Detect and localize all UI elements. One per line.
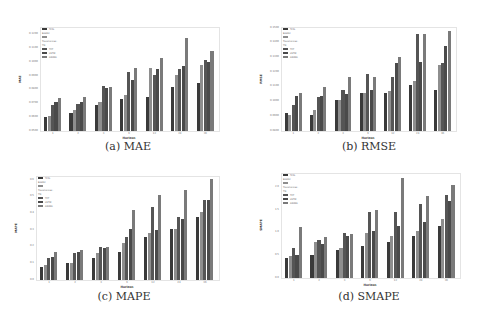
y-tick-label: 0.0900: [24, 74, 38, 77]
legend-swatch: [283, 198, 288, 200]
legend-swatch: [42, 36, 47, 38]
legend-item: TCN-BiGRU: [283, 174, 298, 182]
legend-label: ARIMA: [290, 56, 298, 59]
legend-item: TCN-BiGRU: [42, 28, 57, 36]
legend-label: TFT: [45, 197, 49, 200]
legend-label: LSTM: [49, 52, 55, 55]
y-tick-label: 0.1300: [265, 55, 279, 58]
legend-label: Transformer-TN: [283, 186, 298, 193]
x-tick-label: 6: [122, 281, 132, 284]
y-tick-label: 0.1000: [265, 99, 279, 102]
legend-swatch: [38, 197, 43, 199]
y-tick-label: 0.1100: [265, 84, 279, 87]
y-tick-label: 0.5: [20, 194, 34, 197]
legend-swatch: [42, 52, 47, 54]
bar: [448, 31, 451, 131]
bar: [132, 210, 135, 280]
legend-label: TFT: [49, 48, 53, 51]
x-tick-label: 1: [44, 281, 54, 284]
legend-swatch: [42, 48, 47, 50]
legend-item: ARIMA: [283, 56, 298, 60]
y-tick-label: 0.3: [20, 228, 34, 231]
y-tick-label: 0.6: [20, 178, 34, 181]
x-tick-label: 3: [340, 279, 350, 282]
y-tick-label: 0.1200: [265, 70, 279, 73]
legend-item: Transformer-TN: [42, 36, 57, 48]
legend-item: Transformer-TN: [38, 185, 53, 197]
plot-area: [281, 27, 457, 132]
legend-swatch: [38, 201, 43, 203]
legend-item: TCN-BiGRU: [38, 177, 53, 185]
x-tick-label: 12: [390, 279, 400, 282]
y-tick-label: 0.1200: [24, 32, 38, 35]
x-tick-label: 24: [416, 279, 426, 282]
bar: [324, 237, 327, 278]
y-tick-label: 0.0900: [265, 114, 279, 117]
x-tick-label: 3: [338, 132, 348, 135]
legend-swatch: [38, 185, 43, 187]
bar: [134, 68, 137, 131]
bar: [373, 77, 376, 131]
legend-label: TFT: [290, 194, 294, 197]
legend-swatch: [283, 194, 288, 196]
x-tick-label: 12: [149, 132, 159, 135]
legend-item: ARIMA: [42, 56, 57, 60]
bar: [350, 234, 353, 278]
x-tick-label: 36: [438, 132, 448, 135]
y-axis-label: MAE: [18, 69, 22, 89]
legend-swatch: [38, 205, 43, 207]
bar: [109, 87, 112, 131]
plot-area: [281, 173, 461, 279]
chart-caption: (a) MAE: [68, 140, 188, 153]
y-tick-label: 0.4: [20, 211, 34, 214]
legend-swatch: [283, 174, 288, 176]
bar: [185, 38, 188, 131]
bar: [299, 227, 302, 278]
legend: TCN-BiGRUTransformer-TNTFTLSTMARIMA: [283, 174, 298, 206]
y-tick-label: 2.0: [265, 185, 279, 188]
y-axis-label: RMSE: [259, 69, 263, 89]
legend: TCN-BiGRUTransformer-TNTFTLSTMARIMA: [42, 28, 57, 60]
x-tick-label: 24: [174, 281, 184, 284]
bar: [398, 57, 401, 131]
x-tick-label: 24: [175, 132, 185, 135]
x-tick-label: 6: [365, 279, 375, 282]
y-tick-label: 0.0700: [24, 101, 38, 104]
bar: [184, 190, 187, 280]
chart-caption: (d) SMAPE: [309, 290, 429, 303]
x-tick-label: 1: [48, 132, 58, 135]
bar: [210, 51, 213, 131]
bar: [83, 97, 86, 131]
y-axis-label: SMAPE: [259, 215, 263, 235]
y-tick-label: 0.0: [20, 278, 34, 281]
x-tick-label: 2: [73, 132, 83, 135]
legend-label: Transformer-TN: [42, 40, 57, 47]
x-tick-label: 2: [313, 132, 323, 135]
bar: [426, 196, 429, 278]
legend-label: LSTM: [290, 198, 296, 201]
bar: [106, 247, 109, 280]
legend-swatch: [283, 182, 288, 184]
legend: TCN-BiGRUTransformer-TNTFTLSTMARIMA: [283, 28, 298, 60]
y-tick-label: 0.5: [265, 253, 279, 256]
y-axis-label: MAPE: [14, 218, 18, 238]
x-tick-label: 6: [124, 132, 134, 135]
legend-label: TFT: [290, 48, 294, 51]
x-axis-label: Horizon: [112, 285, 142, 289]
y-tick-label: 0.1500: [265, 26, 279, 29]
legend-label: LSTM: [45, 201, 51, 204]
legend-label: Transformer-TN: [283, 40, 298, 47]
bar: [80, 250, 83, 280]
y-tick-label: 1.0: [265, 230, 279, 233]
y-tick-label: 0.0800: [24, 87, 38, 90]
x-tick-label: 6: [363, 132, 373, 135]
bar: [160, 58, 163, 131]
legend-label: Transformer-TN: [38, 189, 53, 196]
legend-swatch: [283, 52, 288, 54]
y-tick-label: 0.0: [265, 276, 279, 279]
x-tick-label: 1: [288, 132, 298, 135]
x-tick-label: 36: [200, 132, 210, 135]
legend-swatch: [38, 177, 43, 179]
bar: [423, 34, 426, 131]
x-tick-label: 36: [200, 281, 210, 284]
